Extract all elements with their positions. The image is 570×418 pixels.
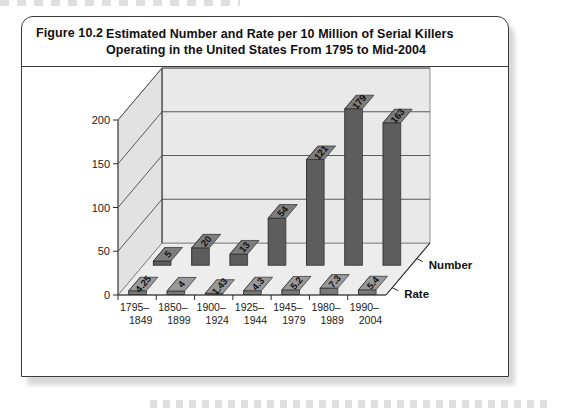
figure-screenshot: Figure 10.2 Estimated Number and Rate pe… [0, 0, 570, 418]
y-axis-tick-label: 100 [92, 202, 110, 214]
category-label: 1795– [120, 301, 149, 313]
figure-header: Figure 10.2 Estimated Number and Rate pe… [22, 17, 508, 67]
series-label-number: Number [429, 259, 473, 271]
y-axis-tick-label: 50 [98, 245, 110, 257]
category-label: 1990– [350, 301, 379, 313]
chart-canvas: 05010015020016317912154132055.47.35.24.3… [22, 67, 508, 376]
y-axis-tick-label: 150 [92, 158, 110, 170]
category-label: 1980– [311, 301, 340, 313]
series-label-rate: Rate [404, 288, 429, 300]
figure-number: Figure 10.2 [36, 26, 103, 40]
category-label: 1849 [129, 314, 153, 326]
category-label: 1899 [167, 314, 191, 326]
figure-frame: Figure 10.2 Estimated Number and Rate pe… [21, 16, 509, 377]
y-axis-tick-label: 0 [104, 289, 110, 301]
depth-axis-tick [392, 288, 398, 291]
category-label: 1979 [282, 314, 306, 326]
category-label: 1989 [320, 314, 344, 326]
scan-artifact-bottom [150, 400, 550, 408]
figure-title: Estimated Number and Rate per 10 Million… [106, 26, 494, 58]
category-label: 1944 [244, 314, 268, 326]
category-label: 1924 [206, 314, 230, 326]
category-label: 1900– [197, 301, 226, 313]
category-label: 1945– [273, 301, 302, 313]
serial-killers-3d-bar-chart: 05010015020016317912154132055.47.35.24.3… [22, 67, 508, 376]
category-label: 2004 [359, 314, 383, 326]
category-label: 1850– [158, 301, 187, 313]
y-axis-tick-label: 200 [92, 114, 110, 126]
category-label: 1925– [235, 301, 264, 313]
scan-artifact-top [0, 0, 240, 6]
depth-axis-tick [417, 259, 423, 262]
